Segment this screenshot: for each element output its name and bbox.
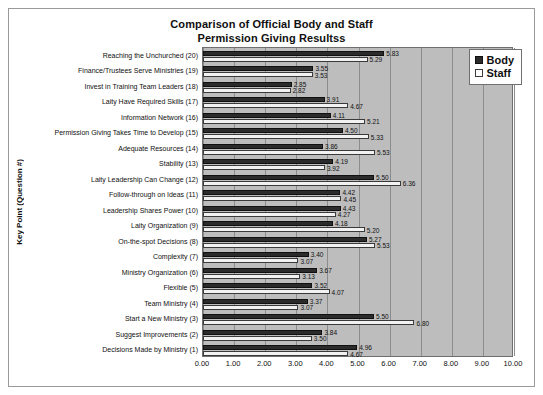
gridline bbox=[483, 48, 484, 356]
category-label: Flexible (5) bbox=[30, 284, 198, 291]
legend-swatch-body-icon bbox=[475, 56, 483, 64]
bar-body bbox=[203, 283, 312, 288]
bar-value-body: 5.83 bbox=[384, 49, 399, 56]
category-label: Team Ministry (4) bbox=[30, 299, 198, 306]
chart-container: Comparison of Official Body and Staff Pe… bbox=[8, 8, 535, 387]
bar-value-staff: 3.92 bbox=[325, 164, 340, 171]
bar-value-staff: 6.36 bbox=[401, 180, 416, 187]
category-label: Stability (13) bbox=[30, 160, 198, 167]
x-axis-labels: 0.001.002.003.004.005.006.007.008.009.00… bbox=[202, 359, 513, 373]
legend-item-body: Body bbox=[475, 54, 515, 66]
category-label: Permission Giving Takes Time to Develop … bbox=[30, 129, 198, 136]
gridline bbox=[390, 48, 391, 356]
bar-value-staff: 4.07 bbox=[330, 288, 345, 295]
bar-body bbox=[203, 206, 341, 211]
bar-staff bbox=[203, 119, 365, 124]
legend-item-staff: Staff bbox=[475, 67, 515, 79]
y-axis-title: Key Point (Question #) bbox=[15, 159, 29, 245]
bar-body bbox=[203, 252, 309, 257]
bar-body bbox=[203, 175, 374, 180]
bar-value-body: 3.91 bbox=[325, 96, 340, 103]
bar-body bbox=[203, 268, 317, 273]
bar-value-staff: 5.21 bbox=[365, 118, 380, 125]
gridline bbox=[234, 48, 235, 356]
bar-value-staff: 4.45 bbox=[341, 195, 356, 202]
bar-value-staff: 3.07 bbox=[298, 304, 313, 311]
x-axis-tick-label: 2.00 bbox=[257, 359, 272, 368]
bar-value-staff: 3.07 bbox=[298, 257, 313, 264]
x-axis-tick-label: 1.00 bbox=[226, 359, 241, 368]
bar-value-body: 3.86 bbox=[323, 142, 338, 149]
bar-staff bbox=[203, 258, 298, 263]
category-label: Complexity (7) bbox=[30, 253, 198, 260]
bar-value-body: 4.11 bbox=[331, 111, 345, 118]
bar-value-body: 5.50 bbox=[374, 173, 389, 180]
bar-body bbox=[203, 144, 323, 149]
bar-staff bbox=[203, 134, 369, 139]
category-label: Invest in Training Team Leaders (18) bbox=[30, 82, 198, 89]
category-label: Leadership Shares Power (10) bbox=[30, 206, 198, 213]
gridline bbox=[452, 48, 453, 356]
x-axis-tick-label: 9.00 bbox=[475, 359, 490, 368]
gridline bbox=[296, 48, 297, 356]
bar-staff bbox=[203, 196, 341, 201]
bar-value-staff: 5.53 bbox=[375, 149, 390, 156]
bar-value-staff: 5.29 bbox=[368, 56, 383, 63]
category-label: Finance/Trustees Serve Ministries (19) bbox=[30, 67, 198, 74]
legend-swatch-staff-icon bbox=[475, 69, 483, 77]
category-label: Reaching the Unchurched (20) bbox=[30, 51, 198, 58]
x-axis-tick-label: 7.00 bbox=[412, 359, 427, 368]
bar-value-body: 3.67 bbox=[317, 266, 332, 273]
gridline bbox=[265, 48, 266, 356]
gridline bbox=[359, 48, 360, 356]
bar-value-staff: 3.13 bbox=[300, 273, 315, 280]
x-axis-tick-label: 6.00 bbox=[381, 359, 396, 368]
bar-staff bbox=[203, 72, 313, 77]
category-label: Start a New Ministry (3) bbox=[30, 315, 198, 322]
x-axis-tick-label: 8.00 bbox=[443, 359, 458, 368]
chart-legend: Body Staff bbox=[469, 49, 523, 85]
bar-staff bbox=[203, 88, 291, 93]
bar-body bbox=[203, 159, 333, 164]
category-label: Follow-through on Ideas (11) bbox=[30, 191, 198, 198]
bar-value-staff: 5.33 bbox=[369, 133, 384, 140]
bar-staff bbox=[203, 289, 330, 294]
bar-value-staff: 4.67 bbox=[348, 102, 363, 109]
bar-body bbox=[203, 51, 384, 56]
chart-title: Comparison of Official Body and Staff Pe… bbox=[9, 17, 534, 45]
bar-body bbox=[203, 345, 357, 350]
bar-body bbox=[203, 97, 325, 102]
bar-staff bbox=[203, 305, 298, 310]
gridline bbox=[421, 48, 422, 356]
bar-value-staff: 5.20 bbox=[365, 226, 380, 233]
x-axis-tick-label: 4.00 bbox=[319, 359, 334, 368]
bar-staff bbox=[203, 336, 312, 341]
bar-value-staff: 6.80 bbox=[414, 319, 429, 326]
bar-body bbox=[203, 221, 333, 226]
category-label: Laity Have Required Skills (17) bbox=[30, 98, 198, 105]
bar-body bbox=[203, 314, 374, 319]
bar-body bbox=[203, 190, 340, 195]
bar-staff bbox=[203, 227, 365, 232]
bar-body bbox=[203, 113, 331, 118]
legend-label-staff: Staff bbox=[487, 67, 511, 79]
bar-body bbox=[203, 237, 367, 242]
category-label: Laity Organization (9) bbox=[30, 222, 198, 229]
x-axis-tick-label: 3.00 bbox=[288, 359, 303, 368]
bar-staff bbox=[203, 274, 300, 279]
category-label: Ministry Organization (6) bbox=[30, 268, 198, 275]
bar-staff bbox=[203, 103, 348, 108]
bar-value-staff: 4.67 bbox=[348, 350, 363, 357]
category-axis-labels: Reaching the Unchurched (20)Finance/Trus… bbox=[31, 47, 201, 357]
bar-staff bbox=[203, 181, 401, 186]
category-label: Suggest Improvements (2) bbox=[30, 330, 198, 337]
bar-value-staff: 3.50 bbox=[312, 335, 327, 342]
category-label: On-the-spot Decisions (8) bbox=[30, 237, 198, 244]
bar-body bbox=[203, 128, 343, 133]
x-axis-tick-label: 10.00 bbox=[504, 359, 523, 368]
category-label: Laity Leadership Can Change (12) bbox=[30, 175, 198, 182]
bar-staff bbox=[203, 165, 325, 170]
bar-staff bbox=[203, 57, 368, 62]
bar-value-body: 3.52 bbox=[312, 282, 327, 289]
gridline bbox=[327, 48, 328, 356]
